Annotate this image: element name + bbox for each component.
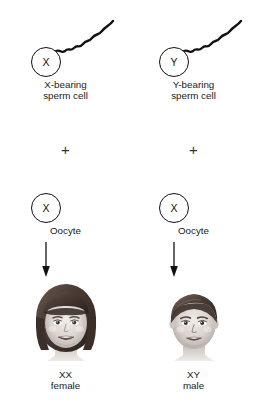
oocyte-caption-right: Oocyte	[128, 225, 259, 236]
sperm-caption-x: X-bearing sperm cell	[0, 79, 131, 102]
arrow-down-right	[128, 240, 259, 280]
oocyte-chromosome-x-left: X	[31, 193, 61, 223]
sperm-tail-icon	[0, 4, 131, 76]
offspring-caption-female: XX female	[0, 369, 131, 392]
girl-face-icon	[19, 277, 113, 365]
sperm-tail-icon	[128, 4, 259, 76]
sperm-caption-y: Y-bearing sperm cell	[128, 79, 259, 102]
oocyte-chromosome-x-right: X	[159, 193, 189, 223]
column-y-bearing: Y Y-bearing sperm cell + X Oocyte	[128, 0, 259, 411]
boy-face-icon	[147, 277, 241, 365]
sex-determination-figure: X X-bearing sperm cell + X Oocyte	[0, 0, 263, 411]
column-x-bearing: X X-bearing sperm cell + X Oocyte	[0, 0, 131, 411]
plus-operator-left: +	[0, 142, 131, 157]
down-arrow-icon	[128, 240, 259, 280]
sperm-head-chromosome-x: X	[31, 47, 61, 77]
down-arrow-icon	[0, 240, 131, 280]
sperm-head-chromosome-y: Y	[159, 47, 189, 77]
oocyte-caption-left: Oocyte	[0, 225, 131, 236]
sperm-cell-y	[128, 4, 259, 76]
sperm-cell-x	[0, 4, 131, 76]
offspring-caption-male: XY male	[128, 369, 259, 392]
offspring-face-male	[128, 277, 259, 365]
offspring-face-female	[0, 277, 131, 365]
plus-operator-right: +	[128, 142, 259, 157]
arrow-down-left	[0, 240, 131, 280]
